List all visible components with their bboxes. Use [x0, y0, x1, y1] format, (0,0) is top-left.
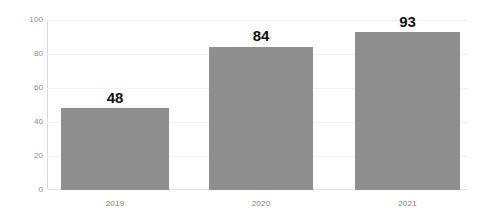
- bar-value-label-2019: 48: [61, 90, 169, 105]
- y-tick-label-20: 20: [5, 152, 43, 160]
- bar-chart: 100 80 60 40 20 0 48 84 93 2019 2020 202…: [0, 0, 504, 223]
- x-axis-label-2020: 2020: [209, 199, 313, 208]
- y-tick-label-60: 60: [5, 84, 43, 92]
- y-tick-label-40: 40: [5, 118, 43, 126]
- y-tick-label-100: 100: [5, 16, 43, 24]
- x-axis-label-2019: 2019: [61, 199, 169, 208]
- bar-2021[interactable]: [355, 32, 460, 190]
- x-axis-label-2021: 2021: [355, 199, 460, 208]
- bar-value-label-2021: 93: [355, 14, 460, 29]
- y-tick-label-0: 0: [5, 186, 43, 194]
- y-axis-tick-labels: 100 80 60 40 20 0: [0, 0, 43, 223]
- bar-2020[interactable]: [209, 47, 313, 190]
- bar-2019[interactable]: [61, 108, 169, 190]
- bar-value-label-2020: 84: [209, 28, 313, 43]
- y-tick-label-80: 80: [5, 50, 43, 58]
